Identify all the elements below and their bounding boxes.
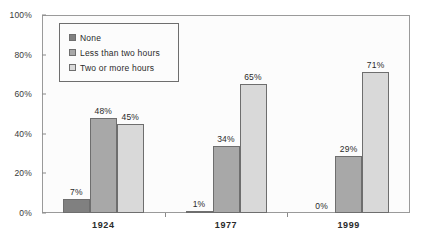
bar-value-label: 29% bbox=[340, 144, 358, 154]
y-axis-tick-label: 100% bbox=[9, 10, 32, 20]
legend-item-label: Less than two hours bbox=[80, 48, 160, 58]
bar-value-label: 48% bbox=[95, 106, 113, 116]
y-axis-tick-label: 0% bbox=[19, 208, 32, 218]
bar-value-label: 34% bbox=[217, 134, 235, 144]
legend-item: Two or more hours bbox=[69, 60, 170, 75]
legend-swatch-icon bbox=[69, 49, 76, 56]
bar-value-label: 7% bbox=[70, 187, 83, 197]
legend-item: None bbox=[69, 30, 170, 45]
x-axis-tick-mark bbox=[287, 213, 288, 217]
y-axis-tick-label: 20% bbox=[14, 168, 32, 178]
bar bbox=[186, 211, 213, 213]
y-axis-tick-mark bbox=[42, 54, 46, 55]
y-axis-tick-label: 80% bbox=[14, 50, 32, 60]
bar bbox=[362, 72, 389, 213]
bar bbox=[63, 199, 90, 213]
bar-value-label: 65% bbox=[244, 72, 262, 82]
legend-swatch-icon bbox=[69, 64, 76, 71]
legend: NoneLess than two hoursTwo or more hours bbox=[59, 23, 179, 82]
bar-value-label: 0% bbox=[315, 201, 328, 211]
y-axis-tick-label: 60% bbox=[14, 89, 32, 99]
legend-swatch-icon bbox=[69, 34, 76, 41]
x-axis-tick-mark bbox=[165, 213, 166, 217]
bar bbox=[117, 124, 144, 213]
x-axis: 192419771999 bbox=[42, 220, 410, 238]
y-axis-tick-mark bbox=[42, 213, 46, 214]
bar-value-label: 71% bbox=[367, 60, 385, 70]
y-axis-tick-mark bbox=[42, 133, 46, 134]
bar-value-label: 45% bbox=[122, 112, 140, 122]
legend-item: Less than two hours bbox=[69, 45, 170, 60]
y-axis-tick-mark bbox=[42, 173, 46, 174]
y-axis-tick-mark bbox=[42, 15, 46, 16]
bar bbox=[213, 146, 240, 213]
x-axis-category-label: 1999 bbox=[337, 220, 359, 230]
x-axis-category-label: 1977 bbox=[215, 220, 237, 230]
bar-chart: 0%20%40%60%80%100% 7%48%45%1%34%65%0%29%… bbox=[0, 0, 421, 240]
y-axis-tick-mark bbox=[42, 94, 46, 95]
bar bbox=[335, 156, 362, 213]
x-axis-category-label: 1924 bbox=[92, 220, 114, 230]
bar-value-label: 1% bbox=[193, 199, 206, 209]
bar bbox=[240, 84, 267, 213]
y-axis: 0%20%40%60%80%100% bbox=[0, 15, 38, 213]
legend-item-label: Two or more hours bbox=[80, 63, 154, 73]
legend-item-label: None bbox=[80, 33, 101, 43]
bar bbox=[90, 118, 117, 213]
y-axis-tick-label: 40% bbox=[14, 129, 32, 139]
